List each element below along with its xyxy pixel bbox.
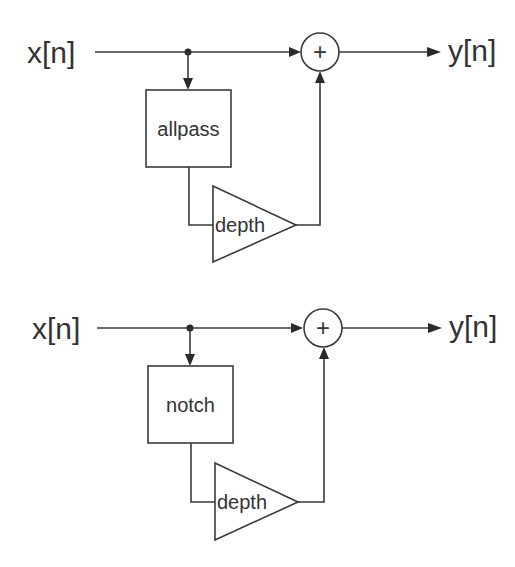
- filter-input-arrow: [185, 354, 195, 366]
- output-arrow: [427, 47, 441, 57]
- plus-symbol: +: [316, 314, 330, 341]
- summer-input-arrow: [289, 47, 301, 57]
- gain-to-summer-line: [298, 356, 324, 502]
- notch-label: notch: [166, 394, 215, 416]
- diagram-allpass: x[n] allpass depth + y[n]: [27, 33, 496, 262]
- output-label: y[n]: [449, 310, 497, 343]
- diagram-notch: x[n] notch depth + y[n]: [32, 309, 497, 540]
- allpass-label: allpass: [157, 118, 219, 140]
- output-arrow: [428, 323, 442, 333]
- input-label: x[n]: [27, 36, 75, 69]
- output-label: y[n]: [448, 34, 496, 67]
- filter-to-gain-line: [189, 167, 213, 225]
- input-label: x[n]: [32, 312, 80, 345]
- depth-label: depth: [217, 491, 267, 513]
- plus-symbol: +: [313, 38, 327, 65]
- summer-gain-arrow: [315, 71, 325, 83]
- block-diagrams: x[n] allpass depth + y[n] x[n] notch dep…: [0, 0, 515, 567]
- summer-gain-arrow: [319, 347, 329, 359]
- filter-input-arrow: [183, 78, 193, 90]
- summer-input-arrow: [291, 323, 303, 333]
- gain-to-summer-line: [296, 80, 320, 225]
- filter-to-gain-line: [191, 443, 215, 502]
- depth-label: depth: [215, 214, 265, 236]
